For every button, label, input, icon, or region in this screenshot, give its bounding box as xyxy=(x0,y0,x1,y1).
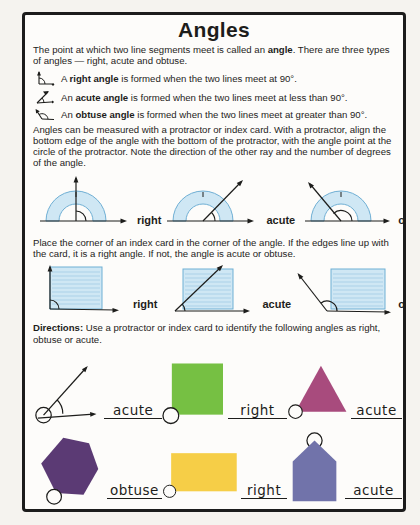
angle-marker-circle xyxy=(163,408,179,424)
exercise-grid: acute right acute obtuse xyxy=(32,349,396,509)
protractor-right: right xyxy=(34,171,161,235)
card-acute-diagram xyxy=(157,261,259,319)
protractor-obtuse: obtuse xyxy=(295,171,406,235)
blue-pentagon-shape xyxy=(287,431,342,509)
directions-paragraph: Directions: Use a protractor or index ca… xyxy=(33,322,395,345)
bullet-acute-angle: An acute angle is formed when the two li… xyxy=(34,89,396,106)
intro-text: The point at which two line segments mee… xyxy=(33,44,268,55)
magenta-triangle-shape xyxy=(287,357,348,429)
angle-marker-circle xyxy=(36,407,51,422)
angle-arc xyxy=(212,212,216,221)
exercise-magenta-triangle: acute xyxy=(287,349,402,429)
protractor-acute: acute xyxy=(161,171,295,235)
directions-text: Use a protractor or index card to identi… xyxy=(33,322,380,344)
index-card-paragraph: Place the corner of an index card in the… xyxy=(33,237,395,260)
obtuse-angle-icon xyxy=(34,107,56,122)
card-right-diagram xyxy=(34,261,130,319)
protractor-diagram-row: right acute xyxy=(32,171,396,235)
exercise-green-square: right xyxy=(162,349,287,429)
protractor-label-right: right xyxy=(137,214,161,235)
card-label-obtuse: obtuse xyxy=(398,298,406,319)
angle-marker-circle xyxy=(47,489,62,504)
card-right: right xyxy=(34,261,157,319)
exercise-yellow-rectangle: right xyxy=(162,429,287,509)
purple-hexagon-shape xyxy=(32,431,104,509)
answer-blank-1: acute xyxy=(104,402,162,419)
angle-marker-circle xyxy=(164,485,176,497)
right-angle-icon xyxy=(34,69,56,88)
intro-bold-term: angle xyxy=(268,44,293,55)
card-label-right: right xyxy=(133,298,157,319)
answer-blank-4: obtuse xyxy=(107,482,162,499)
exercise-angle-figure: acute xyxy=(32,349,162,429)
protractor-obtuse-diagram xyxy=(295,171,395,235)
protractor-acute-diagram xyxy=(161,171,263,235)
protractor-label-acute: acute xyxy=(266,214,295,235)
angle-marker-circle xyxy=(289,405,303,419)
green-square-shape xyxy=(162,357,225,429)
card-diagram-row: right acute xyxy=(32,261,396,319)
intro-paragraph: The point at which two line segments mee… xyxy=(33,44,395,67)
protractor-right-diagram xyxy=(34,171,134,235)
angle-arc xyxy=(57,400,63,414)
protractor-paragraph: Angles can be measured with a protractor… xyxy=(33,124,395,169)
bullet-text: An obtuse angle is formed when the two l… xyxy=(61,109,367,120)
angle-figure-shape xyxy=(32,357,101,429)
answer-blank-5: right xyxy=(241,482,287,499)
card-obtuse-diagram xyxy=(291,261,395,319)
angle-arc xyxy=(76,211,86,221)
answer-blank-3: acute xyxy=(351,402,402,419)
bullet-text: A right angle is formed when the two lin… xyxy=(61,73,297,84)
bullet-right-angle: A right angle is formed when the two lin… xyxy=(34,69,396,88)
answer-blank-6: acute xyxy=(345,482,402,499)
answer-blank-2: right xyxy=(228,402,287,419)
exercise-purple-hexagon: obtuse xyxy=(32,429,162,509)
exercise-blue-pentagon: acute xyxy=(287,429,402,509)
card-label-acute: acute xyxy=(262,298,291,319)
card-obtuse: obtuse xyxy=(291,261,406,319)
card-acute: acute xyxy=(157,261,291,319)
protractor-label-obtuse: obtuse xyxy=(398,214,406,235)
worksheet-page: Angles The point at which two line segme… xyxy=(22,12,406,512)
bullet-obtuse-angle: An obtuse angle is formed when the two l… xyxy=(34,107,396,122)
yellow-rectangle-shape xyxy=(162,437,238,509)
page-title: Angles xyxy=(32,18,396,42)
directions-bold: Directions: xyxy=(33,322,83,333)
bullet-text: An acute angle is formed when the two li… xyxy=(61,92,347,103)
acute-angle-icon xyxy=(34,89,56,106)
